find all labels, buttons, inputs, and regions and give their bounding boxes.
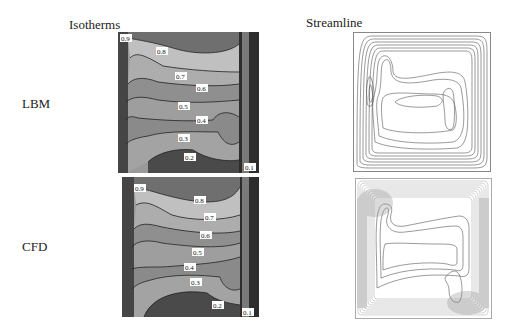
svg-text:0.1: 0.1 — [245, 164, 254, 172]
lbm-streamline-plot — [353, 32, 491, 172]
svg-text:0.8: 0.8 — [157, 48, 166, 56]
svg-text:0.9: 0.9 — [135, 185, 144, 193]
svg-text:0.2: 0.2 — [213, 302, 222, 310]
svg-text:0.6: 0.6 — [197, 85, 206, 93]
svg-text:0.4: 0.4 — [197, 117, 206, 125]
svg-text:0.3: 0.3 — [191, 279, 200, 287]
svg-text:0.6: 0.6 — [201, 232, 210, 240]
svg-text:0.7: 0.7 — [176, 73, 185, 81]
cfd-streamline-plot — [355, 178, 492, 319]
svg-text:0.3: 0.3 — [179, 135, 188, 143]
svg-text:0.4: 0.4 — [185, 264, 194, 272]
svg-text:0.8: 0.8 — [195, 197, 204, 205]
streamline-header: Streamline — [306, 15, 362, 31]
row-label-cfd: CFD — [22, 239, 47, 255]
svg-text:0.9: 0.9 — [121, 35, 130, 43]
svg-text:0.5: 0.5 — [193, 249, 202, 257]
svg-text:0.1: 0.1 — [243, 309, 252, 317]
isotherms-header: Isotherms — [69, 17, 120, 33]
svg-text:0.2: 0.2 — [185, 154, 194, 162]
lbm-isotherms-plot: 0.9 0.8 0.7 0.6 0.5 0.4 0.3 0.2 0.1 — [118, 32, 259, 173]
row-label-lbm: LBM — [22, 96, 50, 112]
svg-text:0.5: 0.5 — [179, 103, 188, 111]
cfd-isotherms-plot: 0.9 0.8 0.7 0.6 0.5 0.4 0.3 0.2 0.1 — [122, 177, 259, 317]
svg-text:0.7: 0.7 — [205, 214, 214, 222]
